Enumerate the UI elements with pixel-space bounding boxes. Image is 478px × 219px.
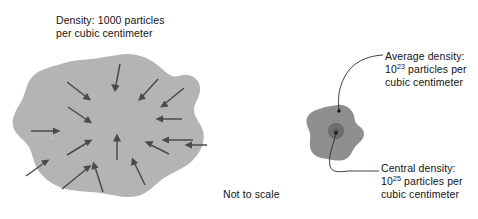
central-density-units-partial: particles per [401, 175, 463, 187]
leader-dot-central-density [334, 131, 338, 135]
average-density-base: 10 [385, 63, 397, 75]
central-density-base: 10 [381, 175, 393, 187]
cloud-density-line-1: Density: 1000 particles [56, 14, 165, 27]
central-density-line-2: 1025 particles per [381, 175, 463, 188]
leader-dot-average-density [337, 109, 341, 113]
average-density-exponent: 23 [397, 62, 405, 71]
not-to-scale-label: Not to scale [223, 188, 280, 201]
central-density-line-3: cubic centimeter [381, 188, 463, 201]
average-density-label: Average density: 1023 particles per cubi… [385, 50, 467, 90]
average-density-line-2: 1023 particles per [385, 63, 467, 76]
cloud-density-label: Density: 1000 particles per cubic centim… [56, 14, 165, 40]
central-density-label: Central density: 1025 particles per cubi… [381, 162, 463, 202]
cloud-speck [51, 137, 53, 139]
cloud-density-line-2: per cubic centimeter [56, 27, 165, 40]
average-density-units-partial: particles per [405, 63, 467, 75]
central-density-exponent: 25 [393, 174, 401, 183]
average-density-line-3: cubic centimeter [385, 76, 467, 89]
